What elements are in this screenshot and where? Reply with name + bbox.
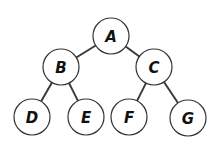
node-label: E xyxy=(81,109,92,127)
node-a: A xyxy=(93,18,129,54)
tree-nodes: ABCDEFG xyxy=(14,18,206,136)
node-d: D xyxy=(14,99,50,135)
node-label: A xyxy=(104,28,117,46)
node-label: D xyxy=(26,109,38,127)
node-g: G xyxy=(170,100,206,136)
node-label: F xyxy=(124,109,135,127)
node-b: B xyxy=(43,49,79,85)
edge-b-e xyxy=(69,83,78,101)
binary-tree-diagram: ABCDEFG xyxy=(0,0,217,149)
node-label: C xyxy=(148,59,159,77)
node-f: F xyxy=(111,99,147,135)
edge-a-c xyxy=(126,47,140,57)
node-label: G xyxy=(182,110,194,128)
node-e: E xyxy=(68,99,104,135)
edge-c-g xyxy=(164,82,178,103)
node-label: B xyxy=(55,59,66,77)
node-c: C xyxy=(136,49,172,85)
edge-b-d xyxy=(41,83,52,102)
edge-a-b xyxy=(76,45,95,57)
edge-c-f xyxy=(137,83,146,101)
